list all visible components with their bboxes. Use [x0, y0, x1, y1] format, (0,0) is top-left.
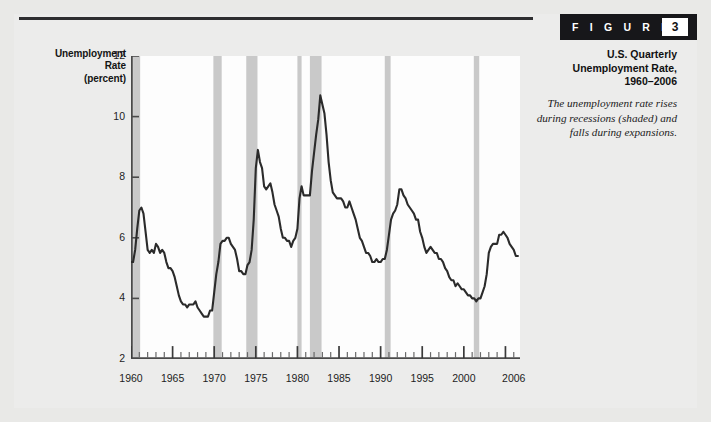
recession-band	[246, 56, 257, 359]
y-tick-label: 6	[99, 231, 125, 243]
x-tick-label: 1960	[119, 372, 142, 384]
y-tick-label: 12	[99, 49, 125, 61]
panel-top-rule	[19, 17, 533, 20]
axis-lines	[131, 56, 520, 359]
y-tick-label: 2	[99, 352, 125, 364]
unemployment-line-chart	[131, 56, 520, 359]
figure-number-bar: F I G U R E 3	[560, 14, 697, 40]
figure-label: F I G U R E	[572, 21, 672, 33]
x-tick-label: 1990	[369, 372, 392, 384]
x-tick-label: 2006	[502, 372, 525, 384]
x-tick-label: 1980	[286, 372, 309, 384]
x-tick-label: 1975	[244, 372, 267, 384]
figure-title: U.S. QuarterlyUnemployment Rate,1960–200…	[533, 48, 691, 89]
recession-band	[385, 56, 391, 359]
y-tick-label: 10	[99, 110, 125, 122]
recession-band	[133, 56, 140, 359]
x-axis-ticks	[131, 346, 514, 358]
recession-bands	[133, 56, 479, 359]
x-axis-tick-labels: 1960196519701975198019851990199520002006	[131, 372, 520, 388]
x-tick-label: 1995	[411, 372, 434, 384]
y-tick-label: 4	[99, 291, 125, 303]
x-tick-label: 1985	[327, 372, 350, 384]
figure-caption: The unemployment rate rises during reces…	[533, 96, 691, 140]
figure-title-line-3: 1960–2006	[533, 75, 677, 89]
recession-band	[474, 56, 479, 359]
plot-wrapper	[131, 56, 520, 359]
unemployment-rate-line	[131, 95, 518, 316]
y-tick-label: 8	[99, 170, 125, 182]
figure-number: 3	[662, 20, 688, 34]
x-tick-label: 2000	[452, 372, 475, 384]
figure-title-line-2: Unemployment Rate,	[533, 62, 677, 76]
recession-band	[213, 56, 221, 359]
figure-page: Unemployment Rate (percent) 24681012 196…	[0, 0, 711, 422]
figure-number-box: 3	[662, 18, 688, 36]
x-tick-label: 1970	[203, 372, 226, 384]
y-axis-tick-labels: 24681012	[99, 56, 125, 359]
figure-title-line-1: U.S. Quarterly	[533, 48, 677, 62]
x-tick-label: 1965	[161, 372, 184, 384]
